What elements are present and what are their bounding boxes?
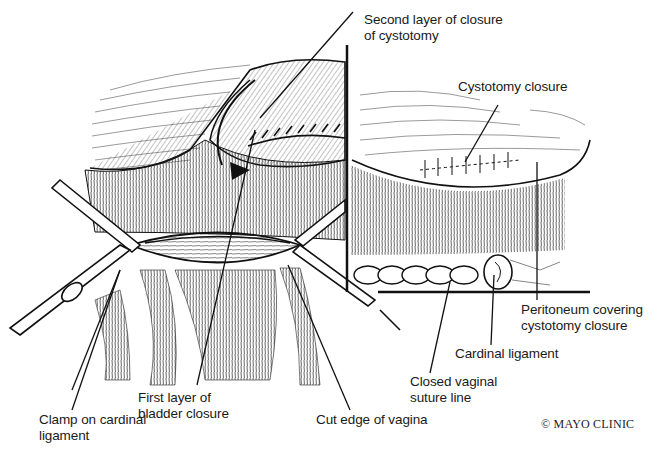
label-second-layer: Second layer of closure of cystotomy	[364, 12, 503, 44]
cystotomy-dashed-line	[420, 160, 520, 170]
right-inset	[350, 91, 590, 289]
label-clamp: Clamp on cardinal ligament	[39, 412, 146, 444]
label-peritoneum: Peritoneum covering cystotomy closure	[521, 302, 643, 334]
label-cut-edge: Cut edge of vagina	[316, 412, 428, 428]
label-cystotomy-closure: Cystotomy closure	[458, 79, 567, 95]
label-closed-vaginal: Closed vaginal suture line	[410, 374, 497, 406]
peritoneum-lines-right	[360, 91, 585, 155]
left-view	[10, 60, 400, 385]
surgical-illustration	[0, 0, 672, 457]
copyright: © MAYO CLINIC	[541, 417, 634, 432]
vaginal-wall-inset	[350, 165, 565, 255]
cystotomy-stitches	[425, 152, 508, 178]
vaginal-suture-line	[354, 266, 478, 284]
label-first-layer: First layer of bladder closure	[138, 390, 229, 422]
cardinal-ligament-stump	[484, 255, 512, 289]
lower-tissue	[95, 268, 320, 385]
label-cardinal-ligament: Cardinal ligament	[455, 346, 558, 362]
